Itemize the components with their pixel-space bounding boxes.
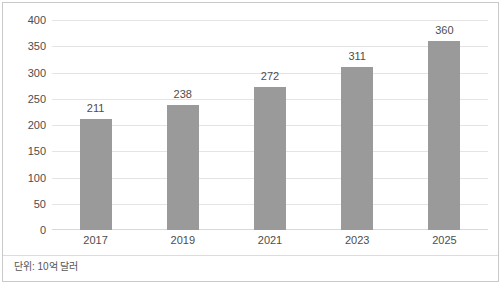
x-axis-tick-2021: 2021 [258,234,282,246]
x-axis-tick-labels: 2017 2019 2021 2023 2025 [52,234,488,254]
footnote-divider [3,255,498,256]
bar-2019[interactable] [167,105,199,230]
bars-layer: 211 238 272 311 360 [52,20,488,230]
y-axis-tick-350: 350 [2,41,46,52]
x-axis-tick-2019: 2019 [171,234,195,246]
y-axis-tick-labels: 400 350 300 250 200 150 100 50 0 [0,20,46,230]
bar-group-2019[interactable]: 238 [139,20,226,230]
footnote-unit-note: 단위: 10억 달러 [14,260,78,273]
bar-group-2023[interactable]: 311 [314,20,401,230]
y-axis-tick-400: 400 [2,15,46,26]
x-axis-tick-2023: 2023 [345,234,369,246]
bar-value-label-2017: 211 [87,103,105,114]
bar-group-2017[interactable]: 211 [52,20,139,230]
bar-value-label-2021: 272 [261,71,279,82]
x-axis-tick-2017: 2017 [83,234,107,246]
bar-value-label-2023: 311 [348,51,366,62]
bar-value-label-2019: 238 [174,89,192,100]
y-axis-tick-100: 100 [2,172,46,183]
bar-2021[interactable] [254,87,286,230]
y-axis-tick-300: 300 [2,67,46,78]
bar-group-2021[interactable]: 272 [226,20,313,230]
y-axis-tick-200: 200 [2,120,46,131]
y-axis-tick-250: 250 [2,93,46,104]
chart-figure: 400 350 300 250 200 150 100 50 0 211 238 [0,0,503,287]
bar-group-2025[interactable]: 360 [401,20,488,230]
y-axis-tick-50: 50 [2,198,46,209]
y-axis-tick-0: 0 [2,225,46,236]
y-axis-tick-150: 150 [2,146,46,157]
bar-2023[interactable] [341,67,373,230]
bar-value-label-2025: 360 [435,25,453,36]
bar-2025[interactable] [428,41,460,230]
x-axis-tick-2025: 2025 [432,234,456,246]
bar-2017[interactable] [80,119,112,230]
